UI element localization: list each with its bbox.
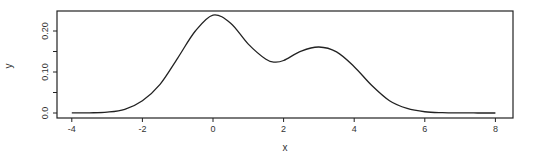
x-axis-label: x [283, 142, 288, 153]
y-axis-label: y [3, 64, 14, 69]
plot-box [57, 11, 513, 118]
y-tick-label: 0.0 [40, 107, 50, 120]
x-tick-label: 2 [281, 124, 286, 134]
x-tick-label: 8 [493, 124, 498, 134]
density-chart: -4-202468 0.00.100.20 x y [0, 0, 534, 158]
density-line [72, 15, 496, 113]
y-axis: 0.00.100.20 [40, 22, 57, 119]
x-axis: -4-202468 [68, 118, 498, 134]
x-tick-label: 0 [210, 124, 215, 134]
x-tick-label: 6 [422, 124, 427, 134]
y-tick-label: 0.10 [40, 63, 50, 81]
x-tick-label: -2 [138, 124, 146, 134]
x-tick-label: -4 [68, 124, 76, 134]
x-tick-label: 4 [352, 124, 357, 134]
y-tick-label: 0.20 [40, 22, 50, 40]
